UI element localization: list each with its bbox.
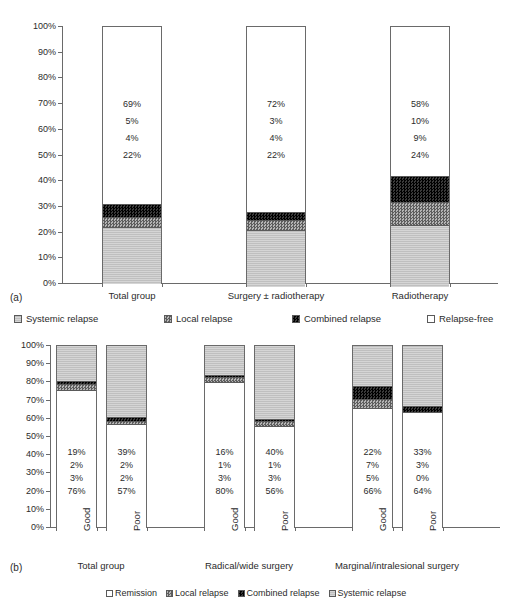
legend-label: Remission: [115, 588, 157, 598]
data-label: 1%: [253, 460, 297, 470]
systemic-swatch-icon: [329, 590, 336, 597]
legend-label: Systemic relapse: [26, 314, 98, 324]
x-category-label: Poor: [280, 511, 290, 531]
x-tick-mark: [306, 283, 307, 287]
data-label: 57%: [105, 486, 149, 496]
y-tick-label: 30%: [22, 202, 56, 211]
x-tick-mark: [102, 283, 103, 287]
y-tick-mark: [46, 472, 50, 473]
x-tick-mark: [393, 527, 394, 531]
bar-segment-local: [391, 202, 449, 225]
data-label: 72%: [254, 99, 298, 109]
x-category-label: Good: [230, 508, 240, 531]
bar: [352, 345, 393, 527]
data-label: 56%: [253, 486, 297, 496]
data-label: 2%: [105, 460, 149, 470]
legend-label: Systemic relapse: [338, 588, 407, 598]
data-label: 0%: [401, 473, 445, 483]
y-tick-label: 90%: [10, 359, 44, 368]
data-label: 19%: [55, 447, 99, 457]
y-tick-mark: [58, 257, 62, 258]
y-tick-label: 80%: [22, 73, 56, 82]
y-tick-mark: [46, 454, 50, 455]
y-tick-label: 70%: [22, 99, 56, 108]
x-tick-mark: [56, 527, 57, 531]
y-tick-mark: [58, 129, 62, 130]
x-category-label: Poor: [132, 511, 142, 531]
data-label: 16%: [203, 447, 247, 457]
remission-swatch-icon: [106, 590, 113, 597]
bar: [56, 345, 97, 527]
x-tick-mark: [450, 283, 451, 287]
bar-segment-local: [247, 220, 305, 230]
data-label: 3%: [401, 460, 445, 470]
y-axis-line: [62, 26, 63, 284]
data-label: 9%: [398, 133, 442, 143]
bar-segment-combined: [353, 386, 392, 399]
systemic-swatch-icon: [14, 315, 22, 323]
bar-segment-systemic: [103, 227, 161, 284]
legend-item: Remission: [106, 588, 157, 598]
data-label: 3%: [203, 473, 247, 483]
panel-b-tag: (b): [10, 562, 22, 573]
x-tick-mark: [204, 527, 205, 531]
y-tick-mark: [46, 381, 50, 382]
x-tick-mark: [254, 527, 255, 531]
data-label: 5%: [351, 473, 395, 483]
bar-segment-systemic: [247, 230, 305, 287]
y-tick-mark: [46, 400, 50, 401]
x-category-label: Poor: [428, 511, 438, 531]
bar-segment-systemic: [353, 346, 392, 386]
y-tick-mark: [46, 418, 50, 419]
data-label: 5%: [110, 116, 154, 126]
y-tick-mark: [46, 345, 50, 346]
y-tick-mark: [46, 527, 50, 528]
y-tick-mark: [58, 155, 62, 156]
legend-label: Local relapse: [175, 588, 229, 598]
x-tick-mark: [106, 527, 107, 531]
bar-segment-systemic: [107, 346, 146, 417]
legend-label: Relapse-free: [439, 314, 493, 324]
bar: [402, 345, 443, 527]
bar: [106, 345, 147, 527]
data-label: 2%: [55, 460, 99, 470]
x-tick-mark: [162, 283, 163, 287]
y-tick-mark: [46, 436, 50, 437]
y-tick-label: 80%: [10, 377, 44, 386]
bar-segment-systemic: [205, 346, 244, 375]
y-tick-label: 90%: [22, 48, 56, 57]
data-label: 22%: [110, 150, 154, 160]
x-group-label: Total group: [21, 561, 181, 571]
data-label: 1%: [203, 460, 247, 470]
data-label: 80%: [203, 486, 247, 496]
x-tick-mark: [97, 527, 98, 531]
legend-item: Relapse-free: [427, 314, 493, 324]
legend-item: Combined relapse: [238, 588, 320, 598]
y-tick-mark: [58, 180, 62, 181]
legend-item: Local relapse: [166, 588, 229, 598]
y-tick-mark: [46, 509, 50, 510]
legend-item: Systemic relapse: [14, 314, 164, 324]
y-tick-mark: [46, 491, 50, 492]
x-tick-mark: [390, 283, 391, 287]
y-tick-label: 100%: [22, 22, 56, 31]
data-label: 22%: [254, 150, 298, 160]
y-axis-line: [50, 345, 51, 528]
panel-a-tag: (a): [10, 292, 22, 303]
combined-swatch-icon: [238, 590, 245, 597]
y-tick-mark: [46, 363, 50, 364]
data-label: 4%: [110, 133, 154, 143]
x-category-label: Good: [82, 508, 92, 531]
y-tick-mark: [58, 206, 62, 207]
data-label: 7%: [351, 460, 395, 470]
bar-segment-systemic: [403, 346, 442, 406]
bar-segment-systemic: [255, 346, 294, 419]
legend-item: Systemic relapse: [329, 588, 407, 598]
legend-label: Local relapse: [176, 314, 233, 324]
legend-panel-b: RemissionLocal relapseCombined relapseSy…: [106, 588, 436, 598]
bar-segment-local: [353, 399, 392, 408]
data-label: 4%: [254, 133, 298, 143]
bar-segment-combined: [103, 204, 161, 217]
x-tick-mark: [295, 527, 296, 531]
data-label: 3%: [254, 116, 298, 126]
